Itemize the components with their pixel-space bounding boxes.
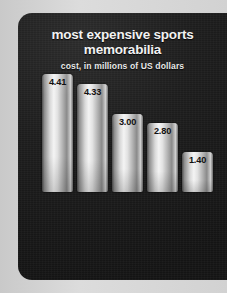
bar-value-soccer-rules-book: 1.40 (176, 155, 219, 165)
bar-value-honus-wagner-1909-baseball-card: 2.80 (141, 126, 184, 136)
bar-value-naismiths-rules-of-basketball: 4.33 (71, 87, 114, 97)
bar-value-babe-ruth-jersey: 4.41 (36, 77, 79, 87)
bar-naismiths-rules-of-basketball[interactable] (77, 84, 108, 192)
chart-card: most expensive sports memorabilia cost, … (18, 13, 227, 280)
bar-babe-ruth-jersey[interactable] (42, 74, 73, 192)
bar-chart-plot-area: 4.41 Babe Ruth Jersey 4.33 Naismith's Ru… (18, 13, 227, 280)
